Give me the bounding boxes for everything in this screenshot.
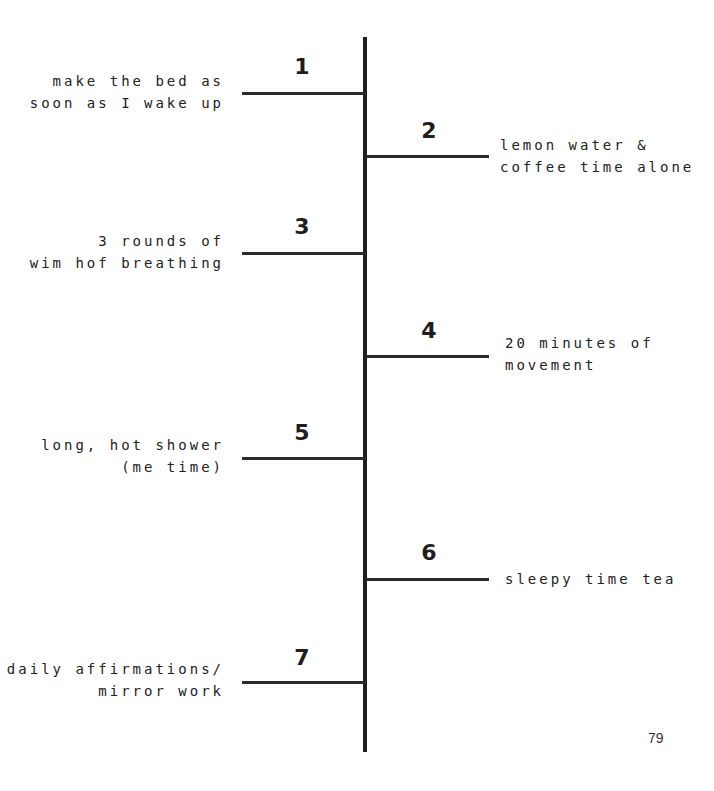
step-label: 20 minutes ofmovement	[505, 332, 654, 376]
step-label: lemon water &coffee time alone	[500, 134, 694, 178]
step-number: 2	[414, 118, 444, 143]
branch-line	[242, 681, 365, 684]
step-number: 6	[414, 540, 444, 565]
branch-line	[366, 578, 489, 581]
branch-line	[366, 155, 489, 158]
step-label: daily affirmations/mirror work	[7, 658, 224, 702]
step-number: 5	[287, 420, 317, 445]
step-number: 4	[414, 318, 444, 343]
step-label: long, hot shower(me time)	[41, 434, 224, 478]
step-number: 1	[287, 54, 317, 79]
step-number: 7	[287, 645, 317, 670]
branch-line	[366, 355, 489, 358]
branch-line	[242, 252, 365, 255]
page-number: 79	[648, 730, 664, 746]
timeline-spine	[363, 37, 367, 752]
step-number: 3	[287, 214, 317, 239]
step-label: sleepy time tea	[505, 568, 676, 590]
branch-line	[242, 92, 365, 95]
branch-line	[242, 457, 365, 460]
step-label: 3 rounds ofwim hof breathing	[30, 230, 224, 274]
step-label: make the bed assoon as I wake up	[30, 70, 224, 114]
